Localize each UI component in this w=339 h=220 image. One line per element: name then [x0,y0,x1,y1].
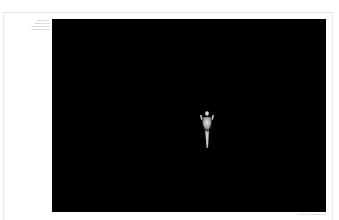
caption-line: collection of the artist [20,28,50,31]
photo-plate [52,19,326,212]
figure-caption: Untitled (figure) gelatin silver print d… [20,19,50,31]
page-rule-left [3,12,4,220]
photo-credit: Courtesy of the artist and gallery [290,213,326,216]
page-rule-right [332,12,333,220]
page-rule-top [3,12,333,13]
standing-figure-image [199,111,215,149]
